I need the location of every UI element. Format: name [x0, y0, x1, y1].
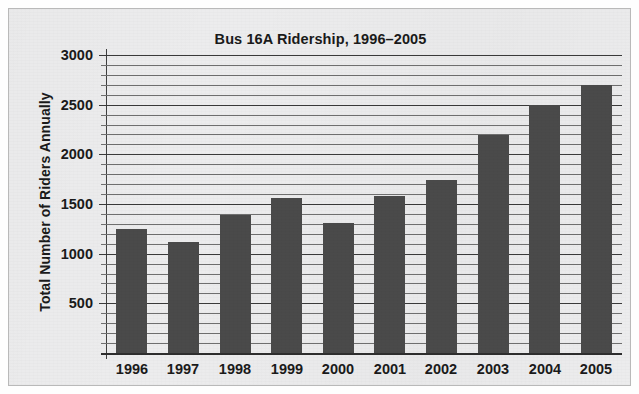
x-tick-label-1997: 1997	[153, 361, 213, 377]
gridline-minor	[106, 65, 622, 66]
y-tick-label: 2500	[33, 98, 93, 113]
y-tick-minor	[101, 184, 107, 185]
y-tick-label: 2000	[33, 147, 93, 162]
bar-2002	[426, 180, 457, 353]
gridline-minor	[106, 95, 622, 96]
bar-2000	[323, 223, 354, 353]
chart-panel: Bus 16A Ridership, 1996–2005 Total Numbe…	[8, 8, 631, 386]
y-tick-minor	[101, 194, 107, 195]
y-tick-minor	[101, 274, 107, 275]
y-tick-minor	[101, 65, 107, 66]
plot-area	[106, 55, 622, 353]
x-axis-line	[101, 353, 622, 355]
y-tick-major	[99, 55, 107, 56]
bar-1997	[168, 242, 199, 353]
y-axis-tick-labels: 50010001500200025003000	[25, 9, 93, 387]
y-tick-minor	[101, 293, 107, 294]
gridline-minor	[106, 85, 622, 86]
bar-2001	[374, 196, 405, 353]
x-tick-label-2005: 2005	[566, 361, 626, 377]
y-tick-minor	[101, 224, 107, 225]
y-tick-minor	[101, 75, 107, 76]
y-tick-minor	[101, 313, 107, 314]
x-tick-label-2003: 2003	[463, 361, 523, 377]
y-tick-minor	[101, 333, 107, 334]
y-tick-label: 3000	[33, 48, 93, 63]
y-tick-minor	[101, 134, 107, 135]
gridline-major	[106, 55, 622, 56]
x-tick-label-2002: 2002	[411, 361, 471, 377]
y-tick-minor	[101, 283, 107, 284]
chart-title: Bus 16A Ridership, 1996–2005	[9, 31, 632, 47]
y-tick-minor	[101, 244, 107, 245]
y-tick-minor	[101, 264, 107, 265]
y-tick-minor	[101, 234, 107, 235]
y-tick-major	[99, 154, 107, 155]
bar-2004	[529, 105, 560, 353]
bar-1996	[116, 229, 147, 353]
y-tick-label: 500	[33, 296, 93, 311]
y-tick-minor	[101, 95, 107, 96]
gridline-minor	[106, 75, 622, 76]
y-tick-label: 1000	[33, 247, 93, 262]
y-tick-major	[99, 105, 107, 106]
y-tick-major	[99, 303, 107, 304]
y-tick-minor	[101, 144, 107, 145]
y-tick-minor	[101, 214, 107, 215]
y-tick-minor	[101, 174, 107, 175]
bar-2005	[581, 85, 612, 353]
x-tick-label-2000: 2000	[308, 361, 368, 377]
y-tick-minor	[101, 115, 107, 116]
y-tick-major	[99, 204, 107, 205]
y-tick-label: 1500	[33, 197, 93, 212]
bar-2003	[478, 135, 509, 353]
y-tick-minor	[101, 323, 107, 324]
bar-1999	[271, 198, 302, 353]
y-tick-minor	[101, 85, 107, 86]
y-tick-minor	[101, 125, 107, 126]
y-tick-minor	[101, 343, 107, 344]
y-tick-minor	[101, 164, 107, 165]
chart-page: Bus 16A Ridership, 1996–2005 Total Numbe…	[0, 0, 639, 394]
bar-1998	[220, 215, 251, 353]
y-tick-major	[99, 254, 107, 255]
x-tick-label-1998: 1998	[205, 361, 265, 377]
